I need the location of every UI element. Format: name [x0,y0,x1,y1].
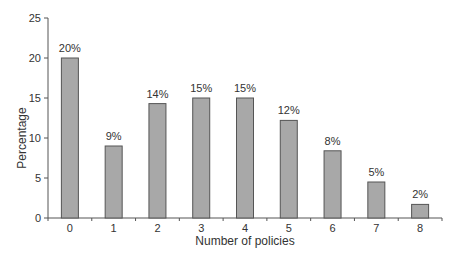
bar-value-label: 14% [146,88,168,100]
bar-value-label: 15% [234,82,256,94]
bar [368,182,385,218]
y-tick-label: 25 [29,12,41,24]
bar-value-label: 5% [368,166,384,178]
y-tick-label: 10 [29,132,41,144]
bar [61,58,78,218]
bar-value-label: 8% [325,135,341,147]
bar [280,120,297,218]
x-tick-label: 1 [111,222,117,234]
bar-value-label: 15% [190,82,212,94]
x-tick-label: 6 [329,222,335,234]
x-tick-label: 0 [67,222,73,234]
bar-value-label: 12% [278,104,300,116]
x-tick-label: 2 [154,222,160,234]
bar-value-label: 9% [106,130,122,142]
x-tick-label: 3 [198,222,204,234]
y-axis: 0510152025 [29,12,48,224]
x-axis-label: Number of policies [195,234,294,248]
y-tick-label: 0 [35,212,41,224]
x-tick-label: 5 [286,222,292,234]
bar [412,204,429,218]
y-axis-label: Percentage [15,107,29,169]
x-tick-label: 7 [373,222,379,234]
y-tick-label: 15 [29,92,41,104]
x-tick-label: 4 [242,222,248,234]
bar [324,151,341,218]
y-tick-label: 20 [29,52,41,64]
bar-chart: 0510152025 012345678 20%9%14%15%15%12%8%… [0,0,456,258]
x-axis: 012345678 [48,218,442,234]
bar-value-label: 2% [412,188,428,200]
bar [105,146,122,218]
x-tick-label: 8 [417,222,423,234]
bar [237,98,254,218]
bar [193,98,210,218]
bars: 20%9%14%15%15%12%8%5%2% [59,42,429,218]
y-tick-label: 5 [35,172,41,184]
bar [149,104,166,218]
bar-value-label: 20% [59,42,81,54]
